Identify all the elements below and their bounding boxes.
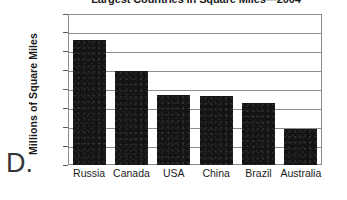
bar bbox=[242, 103, 275, 165]
bar-chart-figure: D. Largest Countries in Square Miles—200… bbox=[0, 0, 347, 200]
bar bbox=[157, 95, 190, 165]
y-axis-title: Millions of Square Miles bbox=[27, 35, 39, 155]
chart-title: Largest Countries in Square Miles—2004 bbox=[66, 0, 326, 5]
bar bbox=[284, 129, 317, 165]
x-tick-label: Australia bbox=[274, 168, 328, 179]
bar bbox=[73, 40, 106, 165]
bar-series bbox=[68, 14, 322, 165]
bar bbox=[115, 71, 148, 165]
bar bbox=[200, 96, 233, 165]
